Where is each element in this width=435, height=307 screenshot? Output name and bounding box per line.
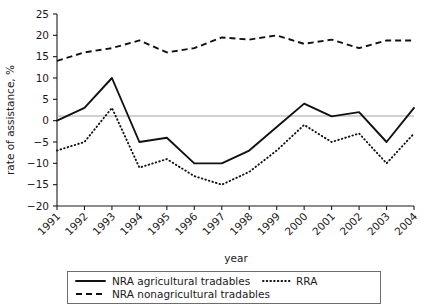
y-tick-label: 25	[36, 8, 49, 20]
x-tick-label: 1996	[172, 210, 200, 238]
y-tick-label: 0	[42, 114, 49, 126]
x-tick-label: 1999	[255, 210, 282, 237]
y-axis-label-text: rate of assistance, %	[4, 65, 16, 175]
series-line-rra	[57, 108, 414, 185]
legend-label-nra-nonagricultural-tradables: NRA nonagricultural tradables	[112, 288, 270, 300]
chart-figure: rate of assistance, % −20−15−10−50510152…	[0, 0, 435, 307]
y-tick-label: 15	[36, 50, 49, 62]
legend: NRA agricultural tradables RRA NRA nonag…	[68, 272, 381, 304]
x-tick-label: 1994	[117, 210, 145, 238]
x-tick-label: 1993	[90, 210, 117, 237]
line-chart: rate of assistance, % −20−15−10−50510152…	[0, 0, 435, 307]
data-series-group	[57, 35, 414, 184]
y-tick-label: −10	[27, 157, 49, 169]
y-tick-label: 20	[36, 29, 49, 41]
x-tick-label: 1991	[35, 210, 62, 237]
x-tick-label: 1992	[62, 210, 89, 237]
x-tick-label: 1997	[200, 210, 227, 237]
y-tick-label: −20	[27, 200, 49, 212]
y-tick-label: −5	[34, 136, 49, 148]
x-axis-label-text: year	[224, 252, 248, 264]
x-axis-ticks: 1991199219931994199519961997199819992000…	[35, 206, 420, 237]
legend-label-rra: RRA	[296, 275, 318, 287]
x-tick-label: 2000	[282, 210, 309, 237]
x-tick-label: 2004	[392, 210, 420, 238]
x-tick-label: 1995	[145, 210, 172, 237]
y-tick-label: 10	[36, 72, 49, 84]
series-line-nra-agricultural-tradables	[57, 78, 414, 163]
y-tick-label: 5	[42, 93, 49, 105]
x-tick-label: 1998	[227, 210, 254, 237]
y-tick-label: −15	[27, 178, 49, 190]
x-tick-label: 2001	[310, 210, 337, 237]
x-tick-label: 2003	[365, 210, 392, 237]
y-axis-ticks: −20−15−10−50510152025	[27, 8, 57, 212]
y-axis-label: rate of assistance, %	[4, 65, 16, 175]
legend-label-nra-agricultural-tradables: NRA agricultural tradables	[112, 275, 250, 287]
series-line-nra-nonagricultural-tradables	[57, 35, 414, 61]
x-tick-label: 2002	[337, 210, 364, 237]
